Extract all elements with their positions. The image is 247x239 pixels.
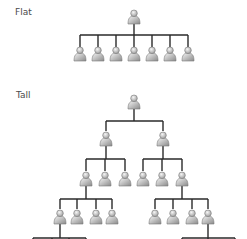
- person-icon: [182, 47, 194, 61]
- person-icon: [137, 172, 149, 186]
- person-icon: [106, 210, 118, 224]
- person-icon: [149, 210, 161, 224]
- person-icon: [157, 132, 169, 146]
- person-icon: [90, 210, 102, 224]
- person-icon: [99, 172, 111, 186]
- person-icon: [186, 210, 198, 224]
- person-icon: [110, 47, 122, 61]
- person-icon: [119, 172, 131, 186]
- person-icon: [164, 47, 176, 61]
- person-icon: [128, 95, 140, 109]
- person-icon: [128, 10, 140, 24]
- person-icon: [128, 47, 140, 61]
- person-icon: [74, 47, 86, 61]
- person-icon: [80, 172, 92, 186]
- person-icon: [100, 132, 112, 146]
- person-icon: [176, 172, 188, 186]
- flat-connectors: [80, 24, 188, 47]
- person-icon: [71, 210, 83, 224]
- person-icon: [202, 210, 214, 224]
- person-icon: [146, 47, 158, 61]
- org-structure-diagram: [0, 0, 247, 239]
- person-icon: [92, 47, 104, 61]
- person-icon: [54, 210, 66, 224]
- person-icon: [167, 210, 179, 224]
- person-icon: [156, 172, 168, 186]
